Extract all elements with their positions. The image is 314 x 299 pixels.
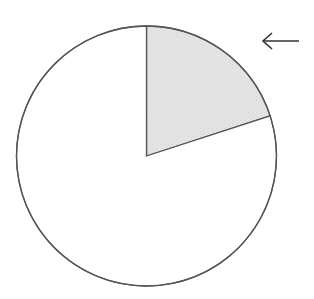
- pie-slices: [17, 26, 277, 286]
- arrow-icon: [263, 33, 299, 49]
- pie-chart: [0, 0, 314, 299]
